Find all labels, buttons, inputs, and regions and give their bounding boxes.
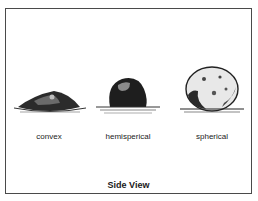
hemispherical-blister-illustration — [92, 73, 164, 119]
convex-label: convex — [9, 132, 89, 141]
figure-title: Side View — [6, 180, 251, 190]
spherical-label: spherical — [172, 132, 252, 141]
hemispherical-label: hemisperical — [88, 132, 168, 141]
diagram-frame: convex hemisperical spherical Side View — [5, 8, 252, 194]
convex-blister-illustration — [14, 85, 86, 119]
spherical-blister-illustration — [176, 63, 248, 119]
